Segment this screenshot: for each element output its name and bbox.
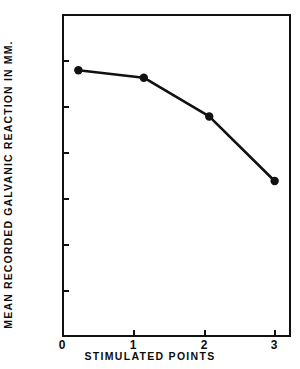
plot-frame xyxy=(62,14,291,337)
y-axis-title: MEAN RECORDED GALVANIC REACTION IN MM. xyxy=(0,0,20,369)
x-axis-title: STIMULATED POINTS xyxy=(0,350,300,362)
galvanic-reaction-line-chart: MEAN RECORDED GALVANIC REACTION IN MM. 7… xyxy=(0,0,300,369)
